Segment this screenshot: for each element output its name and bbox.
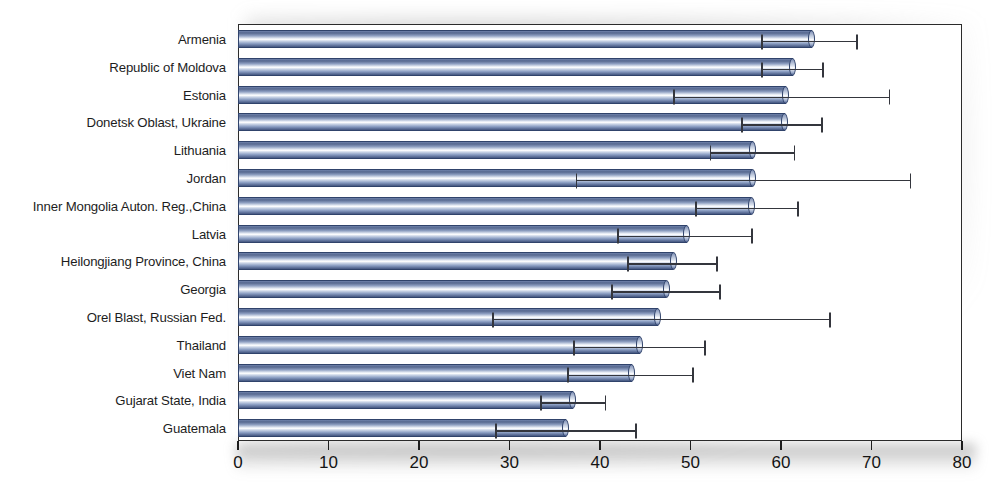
x-axis-tick-label: 30 bbox=[500, 453, 519, 473]
bar-row bbox=[238, 86, 962, 104]
x-axis-tick-label: 70 bbox=[862, 453, 881, 473]
bar[interactable] bbox=[238, 169, 752, 187]
x-axis-tick bbox=[690, 441, 692, 450]
category-label: Georgia bbox=[180, 282, 226, 297]
x-axis-tick bbox=[328, 441, 330, 450]
bar[interactable] bbox=[238, 30, 812, 48]
error-bar-line bbox=[696, 208, 798, 210]
bar-end-cap bbox=[569, 391, 576, 409]
bar-row bbox=[238, 113, 962, 131]
x-axis-tick bbox=[599, 441, 601, 450]
error-bar-cap-high bbox=[794, 145, 796, 160]
bar[interactable] bbox=[238, 364, 632, 382]
error-bar-cap-high bbox=[829, 312, 831, 327]
x-axis-tick-label: 40 bbox=[591, 453, 610, 473]
bar-end-cap bbox=[808, 30, 815, 48]
category-label: Lithuania bbox=[174, 143, 226, 158]
bar-end-cap bbox=[749, 169, 756, 187]
bar-row bbox=[238, 280, 962, 298]
bar-end-cap bbox=[789, 58, 796, 76]
category-label: Estonia bbox=[183, 87, 226, 102]
category-label: Guatemala bbox=[163, 421, 226, 436]
bar-row bbox=[238, 252, 962, 270]
error-bar-cap-low bbox=[540, 396, 542, 411]
bar-end-cap bbox=[636, 336, 643, 354]
category-label: Inner Mongolia Auton. Reg.,China bbox=[33, 198, 226, 213]
bar-end-cap bbox=[683, 225, 690, 243]
bar[interactable] bbox=[238, 252, 673, 270]
bar-end-cap bbox=[781, 113, 788, 131]
x-axis-tick-label: 10 bbox=[319, 453, 338, 473]
bar[interactable] bbox=[238, 58, 793, 76]
error-bar-cap-high bbox=[719, 284, 721, 299]
error-bar-line bbox=[674, 97, 889, 99]
x-axis-tick bbox=[961, 441, 963, 450]
error-bar-cap-high bbox=[856, 34, 858, 49]
error-bar-line bbox=[574, 347, 705, 349]
category-label: Republic of Moldova bbox=[109, 59, 226, 74]
bar[interactable] bbox=[238, 280, 666, 298]
bar[interactable] bbox=[238, 197, 751, 215]
error-bar-cap-high bbox=[821, 118, 823, 133]
error-bar-cap-low bbox=[617, 229, 619, 244]
bar[interactable] bbox=[238, 419, 566, 437]
bar-row bbox=[238, 169, 962, 187]
bar-row bbox=[238, 225, 962, 243]
error-bar-cap-high bbox=[822, 62, 824, 77]
bar-row bbox=[238, 58, 962, 76]
category-label: Jordan bbox=[187, 170, 226, 185]
error-bar-cap-low bbox=[741, 118, 743, 133]
error-bar-cap-low bbox=[710, 145, 712, 160]
category-label: Thailand bbox=[177, 337, 226, 352]
bar[interactable] bbox=[238, 141, 753, 159]
x-axis-tick-label: 60 bbox=[772, 453, 791, 473]
category-label: Donetsk Oblast, Ukraine bbox=[87, 115, 226, 130]
bar[interactable] bbox=[238, 225, 687, 243]
error-bar-cap-low bbox=[495, 423, 497, 438]
error-bar-cap-high bbox=[635, 423, 637, 438]
error-bar-line bbox=[576, 180, 910, 182]
bar[interactable] bbox=[238, 391, 573, 409]
bar[interactable] bbox=[238, 113, 785, 131]
error-bar-line bbox=[628, 263, 717, 265]
category-label: Heilongjiang Province, China bbox=[61, 254, 226, 269]
bar-end-cap bbox=[670, 252, 677, 270]
x-axis-tick bbox=[418, 441, 420, 450]
bar[interactable] bbox=[238, 308, 658, 326]
plot-area bbox=[238, 24, 962, 441]
bar-row bbox=[238, 308, 962, 326]
bar-end-cap bbox=[749, 141, 756, 159]
bar-end-cap bbox=[628, 364, 635, 382]
bar-end-cap bbox=[748, 197, 755, 215]
bar-row bbox=[238, 197, 962, 215]
category-label: Viet Nam bbox=[173, 365, 226, 380]
error-bar-cap-low bbox=[673, 90, 675, 105]
bar-row bbox=[238, 141, 962, 159]
error-bar-cap-high bbox=[751, 229, 753, 244]
bar-end-cap bbox=[562, 419, 569, 437]
bar-row bbox=[238, 336, 962, 354]
error-bar-line bbox=[742, 124, 822, 126]
error-bar-line bbox=[568, 375, 693, 377]
category-label: Latvia bbox=[192, 226, 226, 241]
error-bar-line bbox=[496, 430, 636, 432]
bar[interactable] bbox=[238, 336, 640, 354]
category-label: Armenia bbox=[178, 31, 226, 46]
x-axis: 01020304050607080 bbox=[238, 441, 962, 442]
bar[interactable] bbox=[238, 86, 786, 104]
bar-row bbox=[238, 419, 962, 437]
error-bar-cap-high bbox=[704, 340, 706, 355]
x-axis-tick bbox=[237, 441, 239, 450]
error-bar-line bbox=[612, 291, 721, 293]
category-label: Gujarat State, India bbox=[115, 393, 226, 408]
error-bar-line bbox=[762, 69, 823, 71]
bar-row bbox=[238, 364, 962, 382]
bar-end-cap bbox=[663, 280, 670, 298]
x-axis-tick-label: 80 bbox=[953, 453, 972, 473]
x-axis-tick bbox=[871, 441, 873, 450]
error-bar-line bbox=[541, 402, 605, 404]
error-bar-cap-low bbox=[576, 173, 578, 188]
error-bar-cap-high bbox=[910, 173, 912, 188]
error-bar-cap-low bbox=[573, 340, 575, 355]
category-label: Orel Blast, Russian Fed. bbox=[87, 309, 226, 324]
